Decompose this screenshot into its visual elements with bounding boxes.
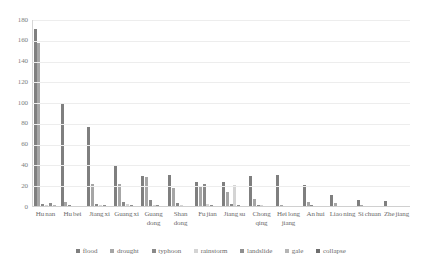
y-axis-tick-label: 60 — [4, 141, 28, 148]
bar[interactable] — [168, 175, 171, 207]
legend-label: flood — [83, 247, 98, 255]
bar[interactable] — [118, 184, 121, 207]
bar-group — [60, 20, 87, 207]
bar[interactable] — [91, 184, 94, 207]
x-axis-label: An hui — [302, 210, 329, 227]
bar[interactable] — [249, 176, 252, 207]
gridline — [33, 124, 410, 125]
x-axis-labels: Hu nanHu beiJiang xiGuang xiGuang dongSh… — [32, 210, 410, 227]
legend-swatch-icon — [240, 249, 244, 253]
x-axis-label: Guang xi — [113, 210, 140, 227]
x-axis-label: Shan dong — [167, 210, 194, 227]
y-axis-tick-label: 0 — [4, 204, 28, 211]
legend-item[interactable]: collapse — [316, 247, 345, 255]
bar-group — [302, 20, 329, 207]
y-axis-tick-label: 100 — [4, 100, 28, 107]
bar[interactable] — [199, 187, 202, 207]
gridline — [33, 82, 410, 83]
bar[interactable] — [226, 192, 229, 207]
gridline — [33, 186, 410, 187]
y-axis-tick-label: 80 — [4, 120, 28, 127]
legend-swatch-icon — [285, 249, 289, 253]
x-axis-label: Jiang su — [221, 210, 248, 227]
x-axis-label: Hei long jiang — [275, 210, 302, 227]
bar[interactable] — [303, 185, 306, 207]
plot-area — [32, 20, 410, 207]
y-axis-tick-label: 20 — [4, 183, 28, 190]
y-axis-tick-label: 180 — [4, 17, 28, 24]
bar[interactable] — [37, 43, 40, 207]
legend-item[interactable]: drought — [110, 247, 138, 255]
bar[interactable] — [172, 188, 175, 207]
chart-legend: flooddroughttyphoonrainstormlandslidegal… — [0, 247, 422, 255]
bar-group — [114, 20, 141, 207]
x-axis-label: Guang dong — [140, 210, 167, 227]
bar[interactable] — [233, 185, 236, 207]
legend-swatch-icon — [316, 249, 320, 253]
bar[interactable] — [61, 103, 64, 207]
gridline — [33, 41, 410, 42]
gridline — [33, 20, 410, 21]
gridline — [33, 103, 410, 104]
bar-group — [248, 20, 275, 207]
x-axis-label: Hu bei — [59, 210, 86, 227]
legend-swatch-icon — [110, 249, 114, 253]
legend-label: landslide — [247, 247, 272, 255]
bar-group — [383, 20, 410, 207]
bar-group — [141, 20, 168, 207]
legend-swatch-icon — [194, 249, 198, 253]
bar-chart: 180160140120100806040200 Hu nanHu beiJia… — [0, 0, 422, 271]
legend-item[interactable]: landslide — [240, 247, 272, 255]
axis-baseline — [33, 206, 410, 207]
bar-group — [221, 20, 248, 207]
legend-item[interactable]: rainstorm — [194, 247, 227, 255]
legend-label: gale — [292, 247, 304, 255]
legend-label: rainstorm — [201, 247, 228, 255]
y-axis-tick-label: 40 — [4, 162, 28, 169]
y-axis-tick-label: 140 — [4, 58, 28, 65]
bar[interactable] — [34, 29, 37, 207]
legend-item[interactable]: gale — [285, 247, 303, 255]
bar[interactable] — [203, 184, 206, 207]
gridline — [33, 165, 410, 166]
bar-group — [195, 20, 222, 207]
gridline — [33, 62, 410, 63]
bar[interactable] — [145, 177, 148, 207]
legend-swatch-icon — [76, 249, 80, 253]
bar[interactable] — [87, 127, 90, 207]
bar-groups — [33, 20, 410, 207]
y-axis-tick-label: 160 — [4, 37, 28, 44]
legend-label: drought — [117, 247, 139, 255]
x-axis-label: Zhe jiang — [383, 210, 410, 227]
y-axis-tick-label: 120 — [4, 79, 28, 86]
legend-label: typhoon — [158, 247, 181, 255]
bar[interactable] — [276, 175, 279, 207]
x-axis-label: Chong qing — [248, 210, 275, 227]
legend-swatch-icon — [152, 249, 156, 253]
bar-group — [168, 20, 195, 207]
legend-item[interactable]: flood — [76, 247, 97, 255]
bar-group — [87, 20, 114, 207]
gridline — [33, 145, 410, 146]
bar[interactable] — [141, 176, 144, 207]
x-axis-label: Jiang xi — [86, 210, 113, 227]
x-axis-label: Hu nan — [32, 210, 59, 227]
legend-label: collapse — [323, 247, 346, 255]
bar-group — [356, 20, 383, 207]
bar-group — [275, 20, 302, 207]
x-axis-label: Fu jian — [194, 210, 221, 227]
bar-group — [33, 20, 60, 207]
bar-group — [329, 20, 356, 207]
x-axis-label: Liao ning — [329, 210, 356, 227]
legend-item[interactable]: typhoon — [152, 247, 181, 255]
x-axis-label: Si chuan — [356, 210, 383, 227]
